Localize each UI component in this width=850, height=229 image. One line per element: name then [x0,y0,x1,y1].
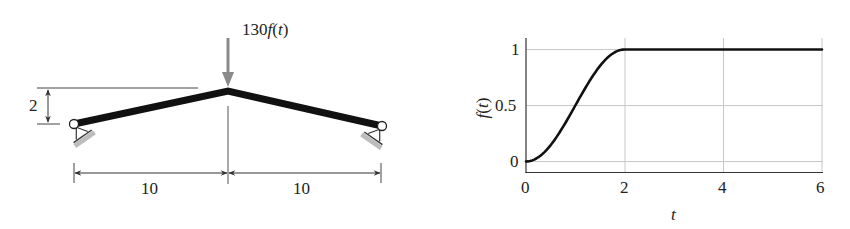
right-pin-hinge [378,122,387,131]
frame-diagram: 2 [29,20,390,198]
ytick-label-1: 1 [511,40,520,59]
xtick-label-0: 0 [521,178,530,197]
right-span-label: 10 [293,179,310,198]
load-label: 130f(t) [242,20,288,39]
xtick-label-2: 2 [620,178,629,197]
x-axis-label: t [671,205,677,224]
ft-plot: 0 2 4 6 0 0.5 1 t f(t) [473,38,825,224]
plot-grid [526,38,823,172]
ytick-label-0-5: 0.5 [495,96,516,115]
rise-dimension-label: 2 [29,96,38,115]
left-pin-hinge [70,120,79,129]
load-arrow [222,38,234,87]
xtick-label-4: 4 [718,178,727,197]
ytick-label-0: 0 [510,152,519,171]
y-axis-label: f(t) [473,98,492,119]
left-span-label: 10 [141,179,158,198]
xtick-label-6: 6 [816,178,825,197]
figure-canvas: 2 [0,0,850,229]
